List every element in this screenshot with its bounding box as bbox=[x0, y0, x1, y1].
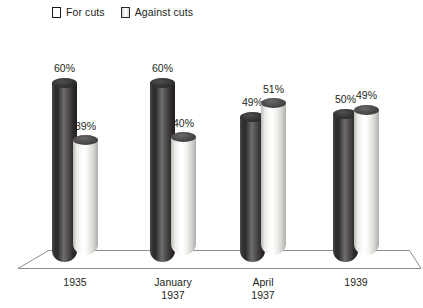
bar-against-cuts-3 bbox=[354, 105, 379, 255]
bar-value-label: 40% bbox=[173, 118, 194, 129]
bar-body bbox=[261, 103, 286, 255]
bar-value-label: 50% bbox=[335, 94, 356, 105]
bar-value-label: 60% bbox=[152, 63, 173, 74]
bar-against-cuts-0 bbox=[73, 135, 98, 255]
x-axis-tick-label-1: January 1937 bbox=[128, 276, 218, 302]
bar-value-label: 60% bbox=[54, 63, 75, 74]
bar-value-label: 49% bbox=[242, 97, 263, 108]
bar-body bbox=[73, 140, 98, 255]
bar-body bbox=[171, 137, 196, 255]
bar-top-ellipse bbox=[150, 78, 175, 88]
bar-value-label: 49% bbox=[356, 90, 377, 101]
bar-top-ellipse bbox=[52, 78, 77, 88]
bar-against-cuts-2 bbox=[261, 98, 286, 255]
chart-container: For cuts Against cuts 60%39%60%40%49%51%… bbox=[0, 0, 423, 308]
bar-top-ellipse bbox=[354, 105, 379, 115]
x-axis-tick-label-3: 1939 bbox=[311, 276, 401, 289]
x-axis-tick-label-0: 1935 bbox=[30, 276, 120, 289]
bar-value-label: 51% bbox=[263, 84, 284, 95]
chart-plot-area: 60%39%60%40%49%51%50%49% bbox=[0, 0, 423, 308]
bar-body bbox=[354, 110, 379, 255]
bar-against-cuts-1 bbox=[171, 132, 196, 255]
x-axis-tick-label-2: April 1937 bbox=[218, 276, 308, 302]
bar-value-label: 39% bbox=[75, 121, 96, 132]
